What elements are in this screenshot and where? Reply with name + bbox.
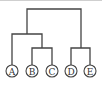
leaf-label: D bbox=[67, 67, 74, 77]
leaf-label: A bbox=[8, 67, 16, 77]
branch-root bbox=[27, 9, 81, 48]
leaf-b: B bbox=[26, 65, 38, 77]
leaf-label: B bbox=[29, 67, 36, 77]
leaf-e: E bbox=[84, 65, 96, 77]
branch-bc bbox=[32, 48, 52, 65]
leaf-d: D bbox=[65, 65, 77, 77]
leaf-label: C bbox=[49, 67, 56, 77]
branch-a-bc bbox=[12, 34, 42, 65]
branch-de bbox=[71, 48, 90, 65]
leaf-a: A bbox=[6, 65, 18, 77]
leaf-label: E bbox=[87, 67, 94, 77]
leaf-c: C bbox=[46, 65, 58, 77]
dendrogram: A B C D E bbox=[0, 0, 102, 97]
